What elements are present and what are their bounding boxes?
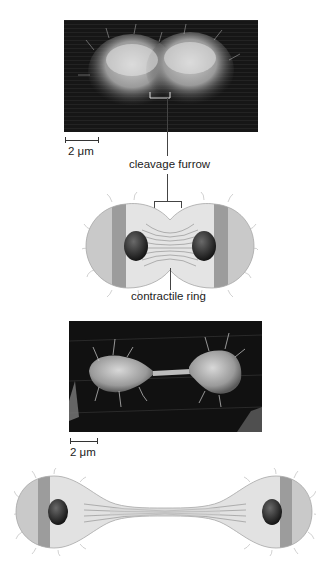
- diagram-midbody: [14, 468, 316, 556]
- label-contractile-ring: contractile ring: [131, 290, 206, 302]
- label-cleavage-furrow: cleavage furrow: [129, 158, 210, 170]
- leader-line-furrow-top: [167, 98, 168, 156]
- micrograph-cleavage-image: [64, 20, 258, 132]
- scale-bar-bottom: [70, 438, 98, 444]
- micrograph-daughter-cells-image: [69, 321, 262, 432]
- leader-line-ring: [170, 268, 171, 290]
- micrograph-cleavage: [64, 20, 258, 132]
- daughter-cells-drawing: [14, 468, 316, 556]
- micrograph-daughter-cells: [69, 321, 262, 432]
- scale-label-top: 2 μm: [68, 145, 94, 157]
- scale-bar-top: [65, 137, 99, 143]
- scale-label-bottom: 2 μm: [70, 446, 96, 458]
